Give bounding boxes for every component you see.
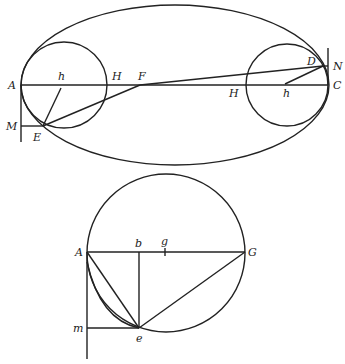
top-figure: A h H F M E D N C H h — [5, 5, 343, 165]
line-FD — [140, 66, 323, 85]
label-H-left: H — [111, 70, 122, 83]
label-A: A — [7, 79, 16, 92]
label-h-left: h — [58, 70, 65, 83]
label-A-bottom: A — [74, 246, 83, 259]
line-Eh — [43, 88, 61, 126]
label-M: M — [5, 120, 18, 133]
label-h-right: h — [283, 87, 290, 100]
label-D: D — [306, 55, 316, 68]
bottom-figure: A b g G m e — [73, 174, 257, 359]
label-g: g — [161, 235, 168, 248]
label-E: E — [32, 131, 41, 144]
label-G: G — [248, 246, 257, 259]
line-eG — [139, 252, 245, 328]
label-m: m — [73, 322, 83, 335]
line-Ae — [87, 252, 139, 328]
label-e: e — [136, 332, 143, 345]
label-N: N — [332, 60, 343, 73]
label-H-right: H — [228, 87, 239, 100]
geometry-diagram: A h H F M E D N C H h A b g G m e — [0, 0, 345, 364]
label-F: F — [137, 70, 146, 83]
line-EF — [43, 85, 140, 126]
label-b: b — [135, 237, 142, 250]
label-C: C — [333, 79, 342, 92]
arc-Ae — [87, 262, 139, 328]
